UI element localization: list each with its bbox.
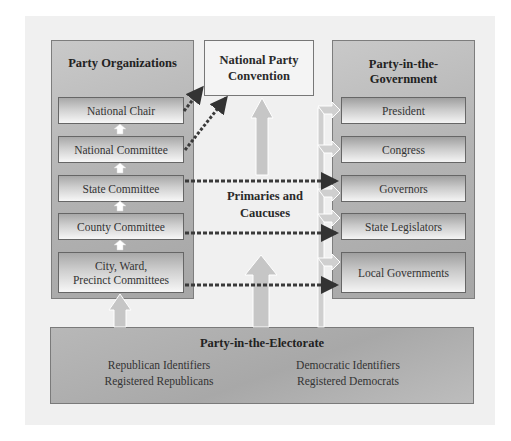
- chair-to-convention-dotted-arrow: [184, 88, 202, 111]
- connector-arrows: [0, 0, 511, 441]
- committee-to-convention-dotted-arrow: [185, 98, 226, 150]
- electorate-to-government-bracket: [318, 102, 340, 327]
- primaries-to-convention-arrow-icon: [251, 98, 273, 175]
- electorate-to-primaries-arrow-icon: [245, 255, 277, 327]
- org-hierarchy-up-arrow-icons: [114, 124, 126, 250]
- electorate-to-organizations-arrow-icon: [109, 294, 131, 327]
